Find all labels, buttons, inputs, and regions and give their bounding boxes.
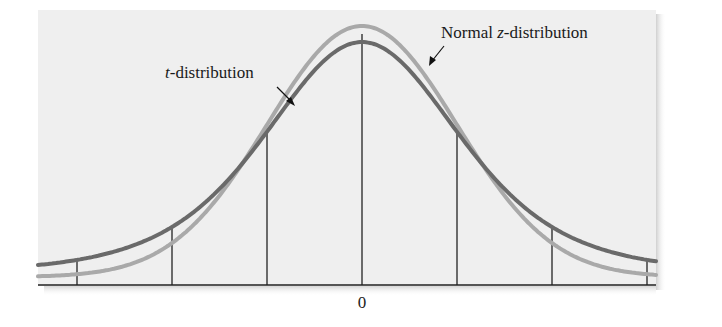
- t-label-suffix: -distribution: [170, 63, 254, 82]
- x-tick-label-zero: 0: [358, 293, 367, 313]
- normal-label-italic: z: [497, 23, 504, 42]
- distribution-chart: [0, 0, 722, 327]
- panel-shadow-bottom: [44, 286, 656, 296]
- normal-label-prefix: Normal: [441, 23, 497, 42]
- normal-distribution-label: Normal z-distribution: [441, 23, 588, 43]
- t-distribution-label: t-distribution: [165, 63, 254, 83]
- normal-label-suffix: -distribution: [504, 23, 588, 42]
- panel-shadow-right: [656, 14, 666, 290]
